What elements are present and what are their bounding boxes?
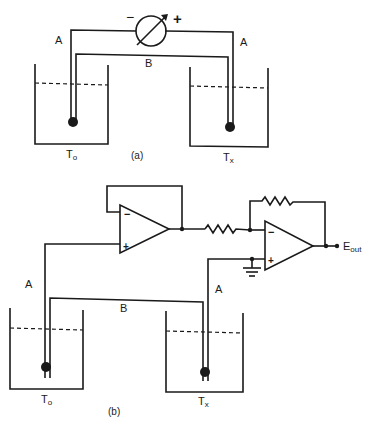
feedback-resistor xyxy=(250,197,325,246)
wire-a-left-label: A xyxy=(55,34,63,46)
opamp-1-minus: − xyxy=(124,208,130,220)
right-liquid-level xyxy=(190,86,268,88)
figure-b: − + − + Eout xyxy=(10,186,362,417)
ground-icon xyxy=(243,259,261,276)
right-liquid-level xyxy=(166,331,243,333)
wire-b-label: B xyxy=(145,57,152,69)
meter-plus-label: + xyxy=(173,10,182,27)
voltmeter-icon xyxy=(136,14,168,46)
node-dot xyxy=(324,244,328,248)
left-bath-label: To xyxy=(41,393,53,407)
left-beaker xyxy=(10,308,83,389)
output-terminal xyxy=(335,244,339,248)
meter-minus-label: − xyxy=(126,9,134,25)
wire-a-right xyxy=(208,259,265,381)
wire-a-right-label: A xyxy=(240,36,248,48)
wire-a-right-label: A xyxy=(215,283,223,295)
opamp-2-minus: − xyxy=(268,226,274,238)
opamp-1-feedback xyxy=(107,186,182,229)
left-liquid-level xyxy=(10,328,83,330)
output-label: Eout xyxy=(343,240,362,254)
wire-a-left-label: A xyxy=(25,278,33,290)
right-bath-label: Tx xyxy=(198,395,209,409)
input-resistor xyxy=(205,225,250,233)
node-dot xyxy=(180,227,184,231)
thermocouple-diagram: − + A A B To Tx (a) − + − + Eout xyxy=(0,0,376,430)
figure-a: − + A A B To Tx (a) xyxy=(35,9,268,165)
opamp-2-plus: + xyxy=(268,255,274,266)
hot-junction xyxy=(225,122,235,132)
wire-b-label: B xyxy=(120,302,127,314)
opamp-1-plus: + xyxy=(123,241,129,252)
left-bath-label: To xyxy=(66,148,78,162)
wire-a-right xyxy=(165,31,233,125)
cold-junction xyxy=(68,117,78,127)
figure-a-caption: (a) xyxy=(131,150,143,161)
wire-a-left xyxy=(71,30,136,119)
hot-junction xyxy=(200,367,210,377)
right-beaker xyxy=(190,67,268,147)
figure-b-caption: (b) xyxy=(108,406,120,417)
right-bath-label: Tx xyxy=(223,151,234,165)
right-beaker xyxy=(166,311,243,392)
cold-junction xyxy=(41,362,51,372)
